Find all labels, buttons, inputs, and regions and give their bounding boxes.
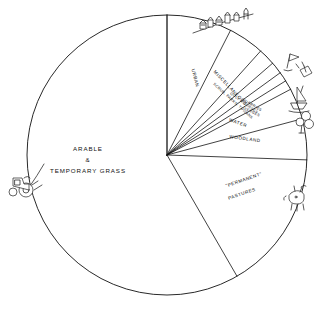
slice-label-arable-line2: & — [85, 156, 90, 163]
slice-label-arable-line1: ARABLE — [73, 145, 103, 152]
land-use-pie-figure: ARABLE & TEMPORARY GRASS URBAN MISCELLAN… — [0, 0, 331, 310]
slice-label-arable-line3: TEMPORARY GRASS — [50, 167, 126, 174]
golf-flag-sketch — [284, 54, 312, 77]
pie-chart-svg: ARABLE & TEMPORARY GRASS URBAN MISCELLAN… — [0, 0, 331, 310]
